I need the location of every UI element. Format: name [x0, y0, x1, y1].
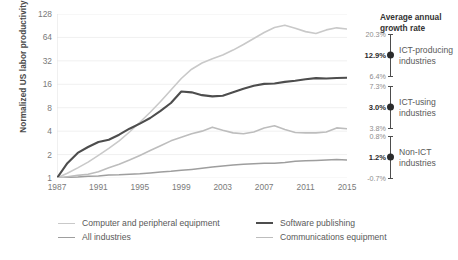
- range-cap-bottom: [388, 76, 393, 77]
- series-line-1: [57, 159, 347, 178]
- x-axis-tick-label: 1991: [89, 182, 108, 192]
- average-growth-value: 12.9%: [364, 51, 386, 60]
- legend-swatch: [58, 237, 75, 238]
- average-marker-dot: [387, 104, 394, 111]
- group-label-line2: industries: [399, 157, 436, 168]
- range-cap-top: [388, 136, 393, 137]
- series-line-3: [57, 126, 347, 178]
- plot-area: 1248163264128198719911995199920032007201…: [57, 14, 347, 178]
- average-marker-dot: [387, 154, 394, 161]
- growth-rate-group: 7.3%3.0%3.8%ICT-usingindustries: [352, 86, 458, 128]
- legend-item[interactable]: Computer and peripheral equipment: [58, 218, 220, 228]
- legend-item[interactable]: Communications equipment: [256, 232, 387, 242]
- legend-label: Software publishing: [280, 218, 355, 228]
- group-label-line2: industries: [399, 55, 453, 66]
- average-marker-dot: [387, 52, 394, 59]
- range-cap-top: [388, 86, 393, 87]
- range-top-value: 20.3%: [366, 30, 386, 39]
- growth-rate-title-line2: growth rate: [380, 23, 458, 34]
- range-top-value: 7.3%: [370, 82, 386, 91]
- group-label-line1: ICT-producing: [399, 45, 453, 56]
- growth-rate-group: 0.8%1.2%-0.7%Non-ICTindustries: [352, 136, 458, 178]
- growth-rate-title: Average annual growth rate: [380, 12, 458, 33]
- legend-swatch: [256, 222, 273, 224]
- y-axis-title: Normalized US labor productivity: [19, 0, 28, 142]
- range-cap-top: [388, 34, 393, 35]
- series-line-0: [57, 25, 347, 178]
- y-axis-tick-label: 8: [47, 103, 52, 113]
- x-axis-tick-label: 2011: [297, 182, 315, 192]
- growth-rate-panel: Average annual growth rate 20.3%12.9%6.4…: [352, 8, 458, 188]
- group-label-line1: Non-ICT: [399, 147, 436, 158]
- group-label-line2: industries: [399, 107, 436, 118]
- y-axis-tick-label: 2: [47, 150, 52, 160]
- range-top-value: 0.8%: [370, 132, 386, 141]
- average-growth-value: 3.0%: [369, 103, 386, 112]
- legend-label: Communications equipment: [280, 232, 387, 242]
- y-axis-tick-label: 128: [38, 9, 52, 19]
- plot-svg: [57, 14, 347, 178]
- x-axis-tick-label: 2003: [213, 182, 232, 192]
- group-label: Non-ICTindustries: [399, 147, 436, 168]
- legend-swatch: [256, 237, 273, 238]
- series-line-2: [57, 78, 347, 178]
- legend-swatch: [58, 223, 75, 224]
- legend-label: Computer and peripheral equipment: [82, 218, 220, 228]
- group-label: ICT-usingindustries: [399, 97, 436, 118]
- range-cap-bottom: [388, 178, 393, 179]
- growth-rate-group: 20.3%12.9%6.4%ICT-producingindustries: [352, 34, 458, 76]
- x-axis-tick-label: 2007: [255, 182, 274, 192]
- group-label-line1: ICT-using: [399, 97, 436, 108]
- y-axis-tick-label: 32: [43, 56, 52, 66]
- group-label: ICT-producingindustries: [399, 45, 453, 66]
- y-axis-tick-label: 64: [43, 32, 52, 42]
- y-axis-tick-label: 16: [43, 79, 52, 89]
- x-axis-tick-label: 1995: [131, 182, 150, 192]
- chart-container: Normalized US labor productivity 1248163…: [0, 0, 458, 260]
- x-axis-tick-label: 1987: [48, 182, 67, 192]
- average-growth-value: 1.2%: [369, 153, 386, 162]
- growth-rate-title-line1: Average annual: [380, 12, 458, 23]
- x-axis-tick-label: 1999: [172, 182, 191, 192]
- range-cap-bottom: [388, 128, 393, 129]
- legend-item[interactable]: Software publishing: [256, 218, 355, 228]
- range-bottom-value: 6.4%: [370, 72, 386, 81]
- legend-item[interactable]: All industries: [58, 232, 131, 242]
- range-bottom-value: -0.7%: [367, 174, 386, 183]
- legend-label: All industries: [82, 232, 131, 242]
- y-axis-tick-label: 4: [47, 126, 52, 136]
